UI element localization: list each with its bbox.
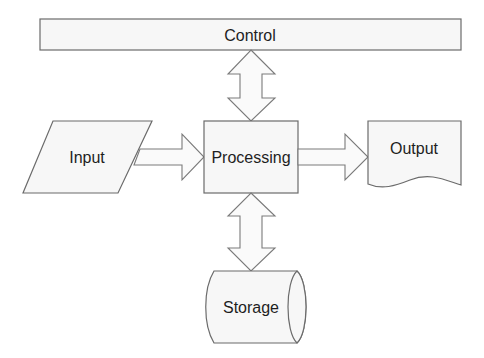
storage-cylinder-end	[288, 271, 306, 343]
control-label: Control	[224, 27, 276, 44]
processing-node: Processing	[204, 121, 298, 193]
output-node: Output	[368, 121, 461, 187]
output-label: Output	[390, 140, 439, 157]
input-label: Input	[69, 149, 105, 166]
processing-storage-double-arrow	[228, 193, 275, 271]
control-node: Control	[40, 19, 461, 50]
input-processing-arrow	[134, 134, 204, 180]
input-node: Input	[23, 121, 152, 193]
storage-label: Storage	[223, 299, 279, 316]
flowchart-diagram: Control Input Processing Output Storage	[0, 0, 484, 358]
control-processing-double-arrow	[228, 50, 275, 121]
processing-label: Processing	[211, 149, 290, 166]
storage-node: Storage	[206, 271, 306, 343]
processing-output-arrow	[298, 134, 368, 180]
